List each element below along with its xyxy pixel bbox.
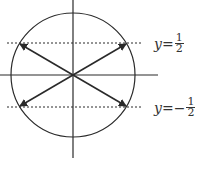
fraction: 1 2: [175, 33, 184, 54]
label-var: y: [154, 36, 162, 52]
denominator: 2: [176, 44, 183, 54]
label-equals: =: [162, 36, 174, 52]
label-y-neg-half: y = − 1 2: [154, 97, 195, 118]
label-var: y: [154, 100, 162, 116]
diagram-graphics: [0, 0, 216, 178]
label-sign: −: [174, 100, 186, 116]
denominator: 2: [187, 108, 194, 118]
arrow-down-left: [20, 75, 73, 106]
label-equals: =: [162, 100, 174, 116]
label-y-half: y = 1 2: [154, 33, 184, 54]
unit-circle-diagram: y = 1 2 y = − 1 2: [0, 0, 216, 178]
arrow-down-right: [73, 75, 126, 106]
arrow-up-left: [20, 44, 73, 75]
arrow-up-right: [73, 44, 126, 75]
fraction: 1 2: [186, 97, 195, 118]
